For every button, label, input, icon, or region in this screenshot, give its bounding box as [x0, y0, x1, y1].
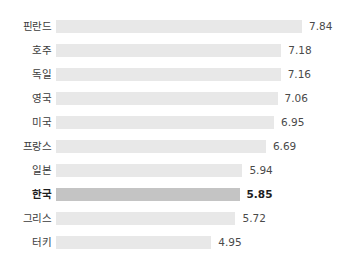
category-label: 핀란드: [0, 20, 52, 33]
bar-row: 독일7.16: [0, 62, 352, 86]
bar-fill: [56, 188, 240, 201]
bar-fill: [56, 68, 281, 81]
bar-track: 7.16: [56, 68, 352, 81]
bar-fill: [56, 236, 211, 249]
category-label: 미국: [0, 116, 52, 129]
category-label: 독일: [0, 68, 52, 81]
bar-value-label: 7.16: [288, 68, 311, 81]
category-label: 호주: [0, 44, 52, 57]
bar-track: 6.95: [56, 116, 352, 129]
bar-value-label: 6.95: [281, 116, 304, 129]
bar-track: 7.84: [56, 20, 352, 33]
bar-track: 6.69: [56, 140, 352, 153]
bar-row: 영국7.06: [0, 86, 352, 110]
bar-track: 5.72: [56, 212, 352, 225]
category-label: 터키: [0, 236, 52, 249]
bar-value-label: 7.18: [288, 44, 311, 57]
category-label: 프랑스: [0, 140, 52, 153]
bar-row: 그리스5.72: [0, 206, 352, 230]
bar-value-label: 7.84: [309, 20, 332, 33]
category-label: 그리스: [0, 212, 52, 225]
horizontal-bar-chart: 핀란드7.84호주7.18독일7.16영국7.06미국6.95프랑스6.69일본…: [0, 0, 352, 259]
bar-fill: [56, 44, 281, 57]
bar-fill: [56, 140, 266, 153]
bar-fill: [56, 20, 302, 33]
bar-value-label: 6.69: [273, 140, 296, 153]
bar-track: 5.94: [56, 164, 352, 177]
bar-value-label: 5.85: [247, 188, 273, 201]
bar-row: 일본5.94: [0, 158, 352, 182]
bar-value-label: 7.06: [285, 92, 308, 105]
bar-track: 5.85: [56, 188, 352, 201]
bar-row: 호주7.18: [0, 38, 352, 62]
bar-value-label: 5.94: [249, 164, 272, 177]
bar-row: 터키4.95: [0, 230, 352, 254]
bar-fill: [56, 116, 274, 129]
bar-value-label: 5.72: [242, 212, 265, 225]
bar-row: 한국5.85: [0, 182, 352, 206]
bar-track: 4.95: [56, 236, 352, 249]
bar-row: 미국6.95: [0, 110, 352, 134]
bar-fill: [56, 92, 278, 105]
bar-track: 7.06: [56, 92, 352, 105]
bar-fill: [56, 212, 235, 225]
bar-row: 핀란드7.84: [0, 14, 352, 38]
category-label: 한국: [0, 188, 52, 201]
category-label: 일본: [0, 164, 52, 177]
category-label: 영국: [0, 92, 52, 105]
bar-fill: [56, 164, 242, 177]
bar-value-label: 4.95: [218, 236, 241, 249]
bar-track: 7.18: [56, 44, 352, 57]
bar-row: 프랑스6.69: [0, 134, 352, 158]
